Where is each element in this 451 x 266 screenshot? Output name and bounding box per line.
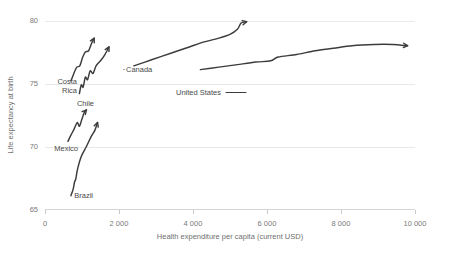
series-label-chile: Chile [77, 99, 94, 108]
series-canada [134, 21, 247, 66]
series-label-mexico: Mexico [54, 144, 78, 153]
series-label-canada: Canada [126, 65, 153, 74]
y-tick-label-65: 65 [30, 205, 38, 214]
x-tick-label-4000: 4 000 [184, 219, 203, 228]
line-chart: 65707580 02 0004 0006 0008 00010 000 Hea… [0, 0, 451, 266]
series-label-brazil: Brazil [74, 191, 93, 200]
x-tick-label-6000: 6 000 [258, 219, 277, 228]
series-mexico [68, 110, 87, 142]
y-axis-title: Life expectancy at birth [6, 76, 15, 153]
series-label-costa-rica: Costa [57, 77, 77, 86]
x-tick-label-2000: 2 000 [110, 219, 129, 228]
series-label-united-states: United States [176, 88, 221, 97]
x-tick-label-8000: 8 000 [332, 219, 351, 228]
series-line [200, 44, 407, 69]
gridlines [45, 22, 415, 148]
series-costa-rica [71, 38, 94, 81]
x-axis-title: Health expenditure per capita (current U… [157, 232, 304, 241]
y-tick-label-80: 80 [30, 16, 38, 25]
y-tick-label-70: 70 [30, 142, 38, 151]
x-tick-label-0: 0 [43, 219, 47, 228]
series-brazil [71, 123, 98, 196]
series-line [134, 22, 247, 66]
series-labels: BrazilMexicoChileCostaRicaCanadaUnited S… [54, 65, 221, 200]
x-tick-label-10000: 10 000 [404, 219, 427, 228]
series-paths [68, 21, 408, 196]
series-line [71, 38, 94, 81]
chart-container: 65707580 02 0004 0006 0008 00010 000 Hea… [0, 0, 451, 266]
y-tick-label-75: 75 [30, 79, 38, 88]
x-axis-tick-labels: 02 0004 0006 0008 00010 000 [43, 219, 427, 228]
series-line [71, 123, 98, 196]
series-line [68, 110, 87, 142]
series-united-states [200, 43, 407, 69]
y-axis-tick-labels: 65707580 [30, 16, 38, 214]
series-label-costa-rica-2: Rica [62, 86, 78, 95]
x-axis-tickmarks [46, 210, 416, 215]
